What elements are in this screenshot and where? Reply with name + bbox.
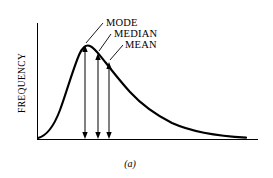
mean-leader-line <box>110 45 123 60</box>
mean-arrow <box>106 62 111 139</box>
mode-label: MODE <box>106 17 138 28</box>
y-axis-label: FREQUENCY <box>17 53 27 113</box>
skewed-distribution-figure: FREQUENCY MODE MEDIAN MEAN (a) <box>0 0 273 178</box>
figure-canvas: FREQUENCY MODE MEDIAN MEAN (a) <box>0 0 273 178</box>
median-arrow <box>95 53 100 139</box>
mean-arrow-head-bottom <box>106 132 111 139</box>
median-arrow-head-bottom <box>95 132 100 139</box>
mode-arrow <box>82 45 87 139</box>
mean-label: MEAN <box>125 39 157 50</box>
median-leader-line <box>99 34 111 51</box>
mode-leader-line <box>86 23 103 43</box>
figure-caption: (a) <box>124 158 136 170</box>
frequency-distribution-curve <box>38 45 246 138</box>
median-label: MEDIAN <box>114 28 157 39</box>
mode-arrow-head-bottom <box>82 132 87 139</box>
